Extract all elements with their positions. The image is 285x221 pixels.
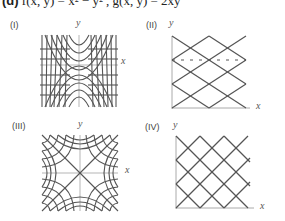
panel-3-label: (III) [12,121,26,131]
heading-part: (d) [2,0,19,8]
panel-4-y-label: y [173,119,177,130]
panel-4-x-label: x [260,200,264,211]
heading-equation: f(x, y) = x² − y² , g(x, y) = 2xy [22,0,181,8]
heading: (d) f(x, y) = x² − y² , g(x, y) = 2xy [2,0,181,9]
panel-4-plot [176,136,254,209]
panel-2-plot [172,36,250,109]
panel-4-label: (IV) [145,122,160,132]
panel-3-y-label: y [78,118,82,129]
panel-1-label: (I) [10,20,19,30]
panel-3-x-label: x [125,164,129,175]
panel-2-y-label: y [169,17,173,28]
panel-1-x-label: x [121,55,125,66]
panel-3-plot [42,135,118,211]
panel-2-x-label: x [256,100,260,111]
panel-1-y-label: y [76,17,80,28]
panel-2-label: (II) [146,20,157,30]
panel-1-plot [40,35,118,107]
